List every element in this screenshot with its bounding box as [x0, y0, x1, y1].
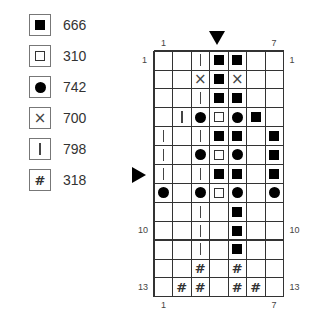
grid-line-vertical — [228, 51, 229, 297]
legend-swatch — [29, 14, 51, 36]
filled-square-icon — [232, 169, 242, 179]
chart-cell — [210, 70, 229, 89]
filled-square-icon — [269, 150, 279, 160]
chart-cell — [247, 70, 266, 89]
chart-cell — [173, 108, 192, 127]
filled-square-icon — [214, 93, 224, 103]
legend-swatch: # — [29, 169, 51, 191]
chart-cell — [247, 164, 266, 183]
chart-cell — [173, 202, 192, 221]
cross-icon: × — [231, 72, 244, 87]
chart-cell — [173, 127, 192, 146]
chart-cell: # — [228, 278, 247, 297]
chart-cell — [154, 108, 173, 127]
chart-cell — [191, 240, 210, 259]
chart-cell — [210, 164, 229, 183]
chart-cell — [154, 51, 173, 70]
chart-cell — [173, 164, 192, 183]
chart-cell: # — [191, 278, 210, 297]
chart-cell — [228, 108, 247, 127]
chart-cell — [173, 183, 192, 202]
filled-square-icon — [232, 93, 242, 103]
chart-cell — [265, 127, 284, 146]
hash-icon: # — [232, 281, 243, 294]
legend-label: 742 — [63, 79, 86, 95]
legend-item: ×700 — [29, 107, 109, 131]
stitch-chart-grid: ××######17171101311013 — [154, 51, 284, 297]
vertical-bar-icon — [181, 111, 183, 123]
grid-line-vertical — [283, 51, 285, 297]
chart-cell — [265, 221, 284, 240]
legend-item: 310 — [29, 45, 109, 69]
chart-cell — [247, 259, 266, 278]
chart-cell — [265, 259, 284, 278]
chart-cell — [228, 146, 247, 165]
chart-cell — [265, 146, 284, 165]
legend-item: 666 — [29, 14, 109, 38]
open-square-icon — [214, 150, 224, 160]
chart-cell — [154, 202, 173, 221]
chart-cell — [265, 108, 284, 127]
filled-circle-icon — [195, 187, 206, 198]
chart-cell — [247, 108, 266, 127]
chart-cell — [154, 146, 173, 165]
chart-cell — [247, 183, 266, 202]
filled-circle-icon — [232, 112, 243, 123]
chart-cell — [154, 259, 173, 278]
grid-line-vertical — [265, 51, 266, 297]
chart-cell: # — [247, 278, 266, 297]
open-square-icon — [35, 51, 45, 61]
chart-cell — [191, 89, 210, 108]
filled-circle-icon — [35, 82, 46, 93]
chart-cell — [154, 221, 173, 240]
chart-cell — [173, 51, 192, 70]
center-row-arrow-icon — [132, 167, 146, 183]
chart-cell — [228, 221, 247, 240]
chart-cell — [228, 89, 247, 108]
chart-cell — [228, 51, 247, 70]
row-label-left: 1 — [142, 55, 147, 65]
hash-icon: # — [195, 262, 206, 275]
legend-label: 700 — [63, 110, 86, 126]
chart-cell — [154, 70, 173, 89]
chart-cell — [191, 51, 210, 70]
row-label-right: 10 — [290, 225, 300, 235]
filled-square-icon — [214, 131, 224, 141]
chart-cell — [265, 240, 284, 259]
filled-square-icon — [232, 244, 242, 254]
chart-cell — [210, 259, 229, 278]
legend-swatch — [29, 45, 51, 67]
open-square-icon — [214, 188, 224, 198]
column-label-first-bottom: 1 — [161, 300, 166, 310]
cross-icon: × — [34, 111, 47, 126]
chart-cell — [228, 240, 247, 259]
chart-cell — [265, 164, 284, 183]
filled-square-icon — [269, 169, 279, 179]
chart-cell — [154, 183, 173, 202]
legend-swatch — [29, 138, 51, 160]
chart-cell: × — [191, 70, 210, 89]
vertical-bar-icon — [200, 92, 202, 104]
filled-circle-icon — [195, 112, 206, 123]
filled-square-icon — [269, 131, 279, 141]
chart-cell — [265, 89, 284, 108]
vertical-bar-icon — [200, 168, 202, 180]
grid-line-vertical — [172, 51, 173, 297]
vertical-bar-icon — [163, 130, 165, 142]
chart-cell — [191, 164, 210, 183]
filled-square-icon — [35, 20, 45, 30]
column-label-first: 1 — [161, 38, 166, 48]
filled-circle-icon — [232, 149, 243, 160]
chart-cell — [247, 51, 266, 70]
vertical-bar-icon — [200, 206, 202, 218]
chart-cell — [265, 278, 284, 297]
filled-square-icon — [232, 131, 242, 141]
legend-swatch — [29, 76, 51, 98]
chart-cell — [265, 51, 284, 70]
filled-circle-icon — [232, 187, 243, 198]
cross-icon: × — [194, 72, 207, 87]
hash-icon: # — [250, 281, 261, 294]
chart-cell — [210, 202, 229, 221]
chart-cell — [247, 146, 266, 165]
filled-circle-icon — [158, 187, 169, 198]
